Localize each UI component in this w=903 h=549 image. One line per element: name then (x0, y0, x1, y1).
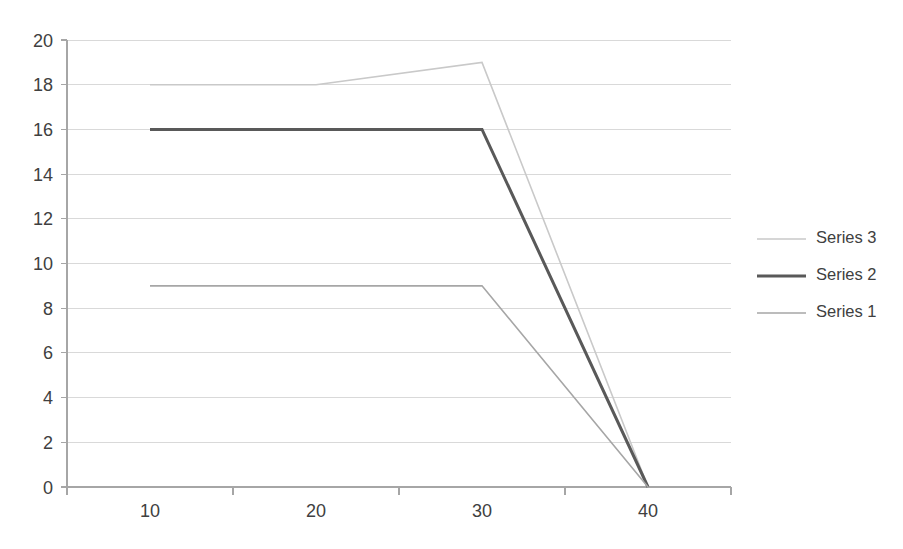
legend-label-series-2[interactable]: Series 2 (816, 265, 877, 283)
x-axis-tick-label: 30 (472, 501, 492, 521)
series-line-series-3 (150, 62, 648, 487)
x-axis-tick-label: 10 (140, 501, 160, 521)
y-axis-tick-label: 8 (43, 299, 53, 319)
y-axis-tick-label: 12 (33, 209, 53, 229)
x-axis-tick-label: 20 (306, 501, 326, 521)
y-tick-labels-group: 02468101214161820 (33, 31, 53, 498)
y-axis-tick-label: 4 (43, 388, 53, 408)
line-chart: 02468101214161820 10203040 Series 3Serie… (0, 0, 903, 549)
y-axis-tick-label: 10 (33, 254, 53, 274)
legend-group: Series 3Series 2Series 1 (757, 228, 877, 320)
y-axis-tick-label: 18 (33, 75, 53, 95)
y-axis-tick-label: 6 (43, 343, 53, 363)
x-tick-labels-group: 10203040 (140, 501, 658, 521)
axis-group (61, 40, 731, 495)
y-axis-tick-label: 16 (33, 120, 53, 140)
y-axis-tick-label: 20 (33, 31, 53, 51)
gridlines-group (67, 40, 731, 487)
series-group (150, 62, 648, 487)
series-line-series-1 (150, 286, 648, 487)
legend-label-series-3[interactable]: Series 3 (816, 228, 877, 246)
x-axis-tick-label: 40 (638, 501, 658, 521)
legend-label-series-1[interactable]: Series 1 (816, 302, 877, 320)
chart-canvas: 02468101214161820 10203040 Series 3Serie… (0, 0, 903, 549)
y-axis-tick-label: 14 (33, 165, 53, 185)
y-axis-tick-label: 2 (43, 433, 53, 453)
y-axis-tick-label: 0 (43, 478, 53, 498)
